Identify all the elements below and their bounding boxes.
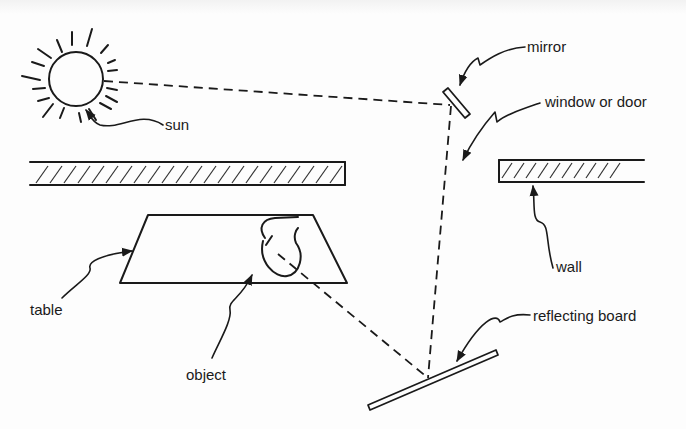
mirror-pointer [460, 47, 525, 85]
sun-pointer [86, 110, 163, 126]
light-ray-sun-to-mirror [104, 81, 450, 105]
label-sun: sun [165, 116, 189, 133]
light-ray-mirror-to-board [428, 106, 451, 378]
reflecting-board-icon [368, 350, 498, 410]
reflecting-board-pointer [457, 315, 530, 361]
light-ray-board-to-object [278, 254, 428, 378]
table-pointer [62, 251, 132, 298]
table-icon [120, 215, 347, 283]
diagram-canvas: sun mirror window or door [0, 0, 686, 429]
label-object: object [186, 366, 227, 383]
wall-right [499, 160, 644, 182]
mirror-icon [443, 88, 470, 118]
sun-icon [22, 29, 117, 122]
wall-left [30, 162, 345, 185]
wall-pointer [533, 186, 553, 268]
label-table: table [30, 301, 63, 318]
label-mirror: mirror [527, 38, 566, 55]
label-reflecting-board: reflecting board [533, 307, 636, 324]
label-window-or-door: window or door [544, 93, 647, 110]
window-pointer [463, 103, 540, 160]
object-pointer [212, 275, 252, 358]
scan-bleed-through [0, 0, 686, 14]
label-wall: wall [555, 258, 582, 275]
